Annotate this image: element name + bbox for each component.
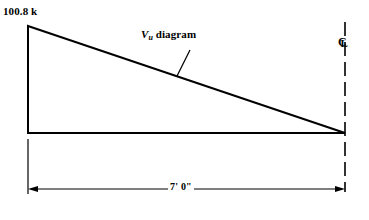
diagram-label-leader-line	[177, 50, 190, 76]
shear-force-diagram-figure: 100.8 k Vu diagram CL 7' 0"	[0, 0, 369, 220]
dimension-arrowhead-left	[28, 186, 38, 192]
centerline-symbol: CL	[338, 36, 352, 50]
span-dimension-label: 7' 0"	[168, 182, 194, 192]
shear-diagram-triangle	[28, 26, 345, 133]
peak-shear-value-label: 100.8 k	[3, 6, 37, 17]
dimension-arrowhead-right	[335, 186, 345, 192]
vu-diagram-word: diagram	[156, 28, 196, 40]
vu-diagram-label: Vu diagram	[141, 29, 196, 42]
centerline-l-glyph: L	[341, 38, 348, 49]
